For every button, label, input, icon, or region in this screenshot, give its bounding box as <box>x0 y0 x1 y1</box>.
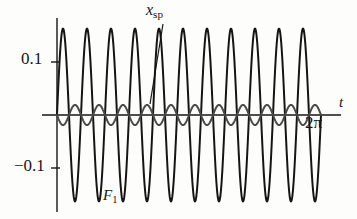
x-axis-tick-label-2pi: 2π <box>305 114 322 131</box>
curve-label-xsp-subscript: sp <box>153 8 163 20</box>
figure-panel: 0.1 −0.1 2π t xsp F1 <box>0 0 357 219</box>
y-axis-tick-label-positive: 0.1 <box>21 50 42 67</box>
curve-label-xsp: xsp <box>146 2 163 20</box>
oscillation-plot <box>0 0 357 219</box>
x-axis-label: t <box>339 95 343 110</box>
curve-label-f1-subscript: 1 <box>112 194 117 205</box>
curve-label-f1-symbol: F <box>103 187 112 203</box>
curve-label-f1: F1 <box>103 188 117 205</box>
y-axis-tick-label-negative: −0.1 <box>14 157 45 174</box>
